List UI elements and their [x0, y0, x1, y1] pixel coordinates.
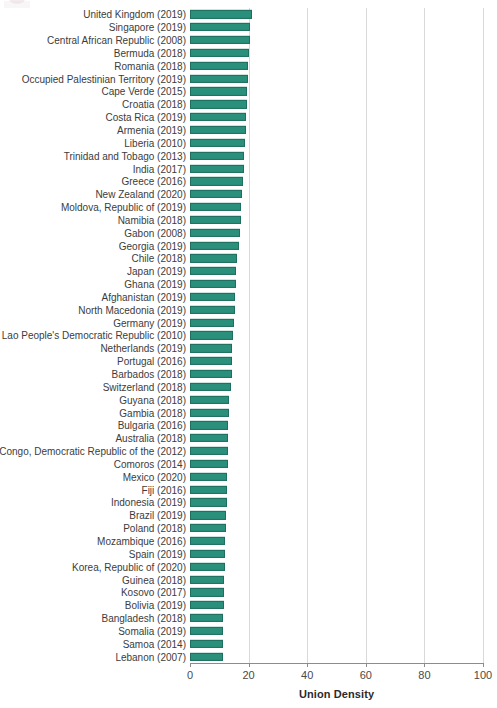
bar[interactable]	[190, 280, 236, 288]
chart-row: Comoros (2014)	[0, 458, 497, 471]
bar[interactable]	[190, 293, 235, 301]
bar[interactable]	[190, 216, 241, 224]
chart-row: Kosovo (2017)	[0, 586, 497, 599]
bar[interactable]	[190, 537, 225, 545]
bar[interactable]	[190, 100, 247, 108]
chart-row: Ghana (2019)	[0, 278, 497, 291]
category-label: Liberia (2010)	[124, 137, 186, 148]
category-label: Chile (2018)	[132, 253, 186, 264]
bar[interactable]	[190, 152, 244, 160]
bar[interactable]	[190, 447, 228, 455]
bar[interactable]	[190, 36, 250, 44]
x-tick	[307, 663, 308, 667]
bar[interactable]	[190, 383, 231, 391]
bar[interactable]	[190, 614, 223, 622]
bar[interactable]	[190, 421, 228, 429]
chart-row: Australia (2018)	[0, 432, 497, 445]
bar[interactable]	[190, 652, 223, 660]
chart-row: Japan (2019)	[0, 265, 497, 278]
chart-row: Gambia (2018)	[0, 406, 497, 419]
chart-row: Brazil (2019)	[0, 509, 497, 522]
bar[interactable]	[190, 23, 250, 31]
category-label: Namibia (2018)	[118, 214, 186, 225]
chart-row: New Zealand (2020)	[0, 188, 497, 201]
category-label: Guinea (2018)	[122, 574, 186, 585]
bar[interactable]	[190, 10, 252, 18]
bar[interactable]	[190, 344, 232, 352]
chart-row: Cape Verde (2015)	[0, 85, 497, 98]
bar[interactable]	[190, 370, 232, 378]
bar[interactable]	[190, 331, 233, 339]
bar[interactable]	[190, 434, 228, 442]
bar[interactable]	[190, 319, 234, 327]
x-axis-line	[190, 663, 483, 664]
category-label: Cape Verde (2015)	[101, 86, 186, 97]
bar[interactable]	[190, 254, 237, 262]
bar[interactable]	[190, 126, 246, 134]
chart-row: Croatia (2018)	[0, 98, 497, 111]
category-label: Indonesia (2019)	[111, 497, 186, 508]
bar[interactable]	[190, 357, 232, 365]
bar[interactable]	[190, 396, 229, 404]
bar[interactable]	[190, 267, 236, 275]
bar[interactable]	[190, 241, 239, 249]
chart-row: Poland (2018)	[0, 522, 497, 535]
category-label: North Macedonia (2019)	[78, 304, 186, 315]
category-label: Bermuda (2018)	[114, 47, 186, 58]
bar[interactable]	[190, 640, 223, 648]
chart-row: Barbados (2018)	[0, 368, 497, 381]
x-tick-label: 40	[301, 669, 313, 681]
category-label: Central African Republic (2008)	[47, 35, 186, 46]
chart-row: Chile (2018)	[0, 252, 497, 265]
chart-row: Switzerland (2018)	[0, 380, 497, 393]
chart-row: North Macedonia (2019)	[0, 303, 497, 316]
category-label: Australia (2018)	[115, 433, 186, 444]
bar[interactable]	[190, 139, 245, 147]
bar[interactable]	[190, 190, 242, 198]
bar[interactable]	[190, 49, 249, 57]
category-label: New Zealand (2020)	[95, 189, 186, 200]
chart-row: Mozambique (2016)	[0, 535, 497, 548]
bar[interactable]	[190, 408, 229, 416]
bar[interactable]	[190, 563, 225, 571]
bar[interactable]	[190, 498, 227, 506]
bar[interactable]	[190, 485, 227, 493]
bar[interactable]	[190, 306, 235, 314]
chart-figure: 020406080100 Union Density United Kingdo…	[0, 0, 497, 708]
bar[interactable]	[190, 524, 226, 532]
chart-row: Afghanistan (2019)	[0, 291, 497, 304]
chart-row: Somalia (2019)	[0, 624, 497, 637]
category-label: Mexico (2020)	[123, 471, 186, 482]
category-label: Lao People's Democratic Republic (2010)	[2, 330, 186, 341]
bar[interactable]	[190, 75, 248, 83]
bar[interactable]	[190, 62, 248, 70]
bar[interactable]	[190, 511, 226, 519]
category-label: Barbados (2018)	[112, 369, 187, 380]
bar[interactable]	[190, 460, 228, 468]
category-label: Congo, Democratic Republic of the (2012)	[0, 446, 186, 457]
bar[interactable]	[190, 177, 243, 185]
category-label: Greece (2016)	[122, 176, 186, 187]
category-label: Brazil (2019)	[129, 510, 186, 521]
bar[interactable]	[190, 203, 241, 211]
bar[interactable]	[190, 601, 224, 609]
category-label: Bangladesh (2018)	[101, 613, 186, 624]
bar[interactable]	[190, 229, 240, 237]
category-label: Georgia (2019)	[119, 240, 186, 251]
bar[interactable]	[190, 550, 225, 558]
category-label: Costa Rica (2019)	[105, 112, 186, 123]
x-tick-label: 20	[242, 669, 254, 681]
bar[interactable]	[190, 473, 227, 481]
bar[interactable]	[190, 164, 244, 172]
chart-row: Moldova, Republic of (2019)	[0, 201, 497, 214]
bar[interactable]	[190, 627, 223, 635]
bar[interactable]	[190, 588, 224, 596]
bar[interactable]	[190, 575, 224, 583]
bar[interactable]	[190, 113, 246, 121]
chart-row: Gabon (2008)	[0, 226, 497, 239]
category-label: Fiji (2016)	[142, 484, 186, 495]
category-label: Ghana (2019)	[124, 279, 186, 290]
bar[interactable]	[190, 87, 247, 95]
chart-row: Korea, Republic of (2020)	[0, 560, 497, 573]
category-label: Bolivia (2019)	[125, 600, 186, 611]
